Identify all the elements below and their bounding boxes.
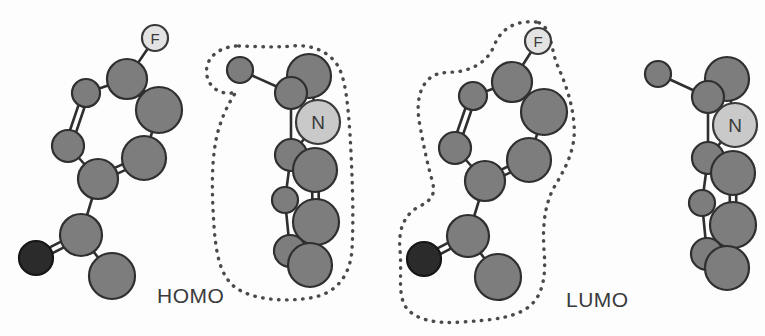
- atom-carbon: [293, 148, 337, 192]
- atom-sphere: [507, 138, 551, 182]
- atom-carbon: [447, 215, 489, 257]
- atom-carbon: [78, 159, 118, 199]
- atom-sphere: [689, 190, 715, 216]
- atom-carbon: [439, 132, 471, 164]
- atom-sphere: [705, 246, 749, 290]
- atom-nitrogen: N: [296, 100, 340, 144]
- atom-carbon: [107, 59, 147, 99]
- atom-sphere: [227, 57, 253, 83]
- atom-sphere: [711, 151, 755, 195]
- atom-group: N: [645, 57, 757, 290]
- atom-sphere: [407, 242, 441, 276]
- atom-sphere: [439, 132, 471, 164]
- atom-carbon: [475, 254, 521, 300]
- atom-sphere: [52, 130, 84, 162]
- atom-oxygen: [19, 241, 53, 275]
- atom-carbon: [272, 187, 298, 213]
- atom-fluorine: F: [525, 28, 551, 54]
- atom-carbon: [52, 130, 84, 162]
- atom-sphere: [293, 148, 337, 192]
- atom-sphere: [72, 79, 100, 107]
- atom-label-fluorine: F: [533, 33, 542, 50]
- atom-group: N: [227, 54, 340, 287]
- atom-sphere: [19, 241, 53, 275]
- atom-sphere: [645, 61, 671, 87]
- atom-carbon: [645, 61, 671, 87]
- atom-sphere: [122, 136, 166, 180]
- atom-sphere: [275, 77, 307, 109]
- atom-carbon: [521, 89, 567, 135]
- atom-oxygen: [407, 242, 441, 276]
- atom-carbon: [288, 243, 332, 287]
- atom-group: F: [407, 28, 567, 300]
- atom-carbon: [60, 214, 102, 256]
- atom-sphere: [288, 243, 332, 287]
- molecule-diagram-lumo: FN: [383, 0, 765, 336]
- atom-sphere: [465, 161, 505, 201]
- atom-sphere: [447, 215, 489, 257]
- atom-carbon: [72, 79, 100, 107]
- atom-label-nitrogen: N: [311, 112, 325, 133]
- atom-sphere: [89, 253, 135, 299]
- figure-canvas: FN FN HOMO LUMO: [0, 0, 765, 336]
- atom-carbon: [459, 82, 487, 110]
- atom-carbon: [711, 151, 755, 195]
- atom-sphere: [475, 254, 521, 300]
- orbital-label-homo: HOMO: [157, 284, 224, 308]
- atom-sphere: [107, 59, 147, 99]
- atom-carbon: [689, 190, 715, 216]
- atom-carbon: [122, 136, 166, 180]
- atom-sphere: [521, 89, 567, 135]
- atom-sphere: [136, 87, 182, 133]
- atom-carbon: [705, 246, 749, 290]
- atom-sphere: [60, 214, 102, 256]
- atom-sphere: [459, 82, 487, 110]
- atom-nitrogen: N: [713, 103, 757, 147]
- atom-fluorine: F: [142, 25, 168, 51]
- atom-group: F: [19, 25, 182, 299]
- atom-carbon: [507, 138, 551, 182]
- panel-lumo: FN: [383, 0, 765, 336]
- atom-carbon: [275, 77, 307, 109]
- atom-sphere: [272, 187, 298, 213]
- atom-carbon: [465, 161, 505, 201]
- atom-carbon: [136, 87, 182, 133]
- orbital-label-lumo: LUMO: [566, 288, 629, 312]
- atom-carbon: [227, 57, 253, 83]
- atom-sphere: [78, 159, 118, 199]
- atom-carbon: [89, 253, 135, 299]
- atom-label-fluorine: F: [150, 30, 159, 47]
- atom-label-nitrogen: N: [728, 115, 742, 136]
